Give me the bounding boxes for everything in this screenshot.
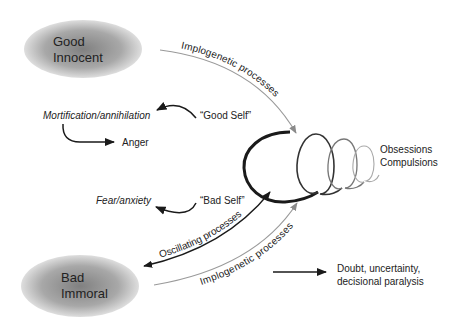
mortification-label: Mortification/annihilation <box>43 110 151 121</box>
immoral-label: Immoral <box>61 286 108 301</box>
anger-label: Anger <box>122 137 149 148</box>
good-self-label: “Good Self” <box>200 110 251 121</box>
fear-label: Fear/anxiety <box>96 195 152 206</box>
good-self-to-mortification-arrow <box>157 106 196 119</box>
doubt-label-line1: Doubt, uncertainty, <box>337 263 420 274</box>
good-label: Good <box>53 34 85 49</box>
spiral <box>244 132 379 202</box>
oscillating-label: Oscillating processes <box>158 208 244 260</box>
implogenetic-top-text: Implogenetic processes <box>180 40 281 99</box>
implogenetic-top-label: Implogenetic processes <box>180 40 281 99</box>
bad-self-to-fear-arrow <box>156 203 196 213</box>
node-good-innocent: Good Innocent <box>24 20 142 78</box>
mortification-to-anger-arrow <box>63 124 114 142</box>
bad-label: Bad <box>61 270 84 285</box>
bad-self-label: “Bad Self” <box>200 195 244 206</box>
obsessions-label: Obsessions <box>380 144 432 155</box>
compulsions-label: Compulsions <box>380 157 438 168</box>
node-bad-immoral: Bad Immoral <box>21 255 139 317</box>
doubt-label-line2: decisional paralysis <box>337 276 424 287</box>
good-innocent-ellipse <box>24 20 142 78</box>
ocd-self-diagram: Good Innocent Bad Immoral Implogenetic p… <box>0 0 456 324</box>
innocent-label: Innocent <box>53 50 103 65</box>
oscillating-text: Oscillating processes <box>158 208 244 260</box>
